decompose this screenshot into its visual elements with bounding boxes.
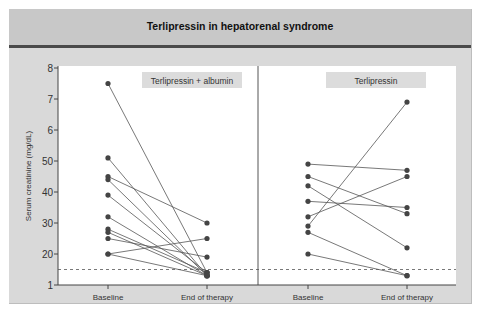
y-tick-label: 7	[47, 94, 53, 105]
data-point	[305, 199, 310, 204]
x-tick-label: Baseline	[293, 293, 324, 302]
y-ticks: 876504030201	[42, 63, 58, 291]
y-tick-label: 6	[47, 125, 53, 136]
data-point	[305, 230, 310, 235]
x-ticks: BaselineEnd of therapyBaselineEnd of the…	[93, 285, 433, 302]
x-tick-label: End of therapy	[181, 293, 233, 302]
data-point	[404, 273, 409, 278]
y-tick-label: 20	[42, 249, 54, 260]
data-point	[204, 255, 209, 260]
data-point	[404, 245, 409, 250]
data-point	[105, 251, 110, 256]
x-tick-label: Baseline	[93, 293, 124, 302]
y-tick-label: 8	[47, 63, 53, 74]
data-point	[105, 236, 110, 241]
data-point	[404, 205, 409, 210]
y-tick-label: 1	[47, 280, 53, 291]
data-point	[105, 81, 110, 86]
y-tick-label: 50	[42, 156, 54, 167]
panel-label-right: Terlipressin	[355, 76, 398, 86]
chart-svg: 876504030201 BaselineEnd of therapyBasel…	[0, 0, 478, 312]
data-point	[404, 211, 409, 216]
data-point	[305, 251, 310, 256]
data-point	[404, 174, 409, 179]
data-point	[105, 177, 110, 182]
data-point	[105, 214, 110, 219]
x-tick-label: End of therapy	[381, 293, 433, 302]
data-point	[305, 174, 310, 179]
y-tick-label: 40	[42, 187, 54, 198]
data-point	[204, 220, 209, 225]
data-point	[105, 193, 110, 198]
data-point	[305, 162, 310, 167]
data-point	[305, 214, 310, 219]
data-point	[204, 273, 209, 278]
data-point	[404, 168, 409, 173]
panel-label-left: Terlipressin + albumin	[151, 76, 234, 86]
y-tick-label: 30	[42, 218, 54, 229]
data-point	[305, 224, 310, 229]
data-point	[305, 183, 310, 188]
y-axis-label: Serum creatinine (mg/dL)	[24, 131, 33, 222]
data-point	[105, 155, 110, 160]
data-point	[105, 230, 110, 235]
data-point	[204, 236, 209, 241]
data-point	[404, 100, 409, 105]
